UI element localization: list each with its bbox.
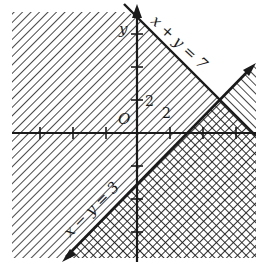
- x-tick-label: 2: [162, 105, 171, 121]
- origin-label: O: [118, 110, 130, 128]
- inequality-graph: O y 2 2 x + y = 7 x − y = 3: [0, 0, 256, 266]
- y-axis-label: y: [118, 20, 128, 38]
- y-tick-label: 2: [145, 93, 154, 109]
